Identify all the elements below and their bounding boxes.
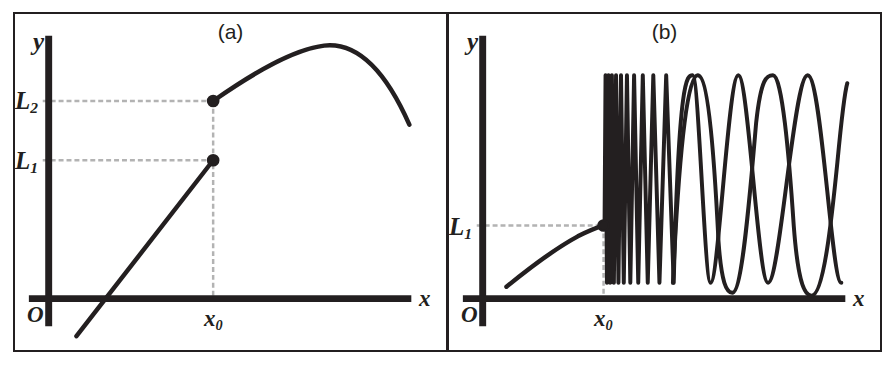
- y-tick-L1-subscript: 1: [30, 159, 38, 176]
- y-axis-label: y: [33, 28, 44, 56]
- x-tick-label-x0: x0: [594, 306, 613, 334]
- point-marker-L1: [208, 155, 219, 166]
- y-tick-label-L1: L1: [449, 213, 472, 243]
- y-tick-label-L1: L1: [15, 147, 38, 177]
- panel-b-plot: [449, 14, 880, 350]
- x-axis-label: x: [853, 286, 865, 312]
- curve-right-branch: [213, 45, 409, 124]
- figure-caption-partial: [0, 356, 895, 376]
- x-axis-label: x: [419, 286, 431, 312]
- curve-oscillation: [605, 75, 842, 283]
- y-axis-label: y: [467, 28, 478, 56]
- panel-a-plot: [15, 14, 446, 350]
- point-marker-L1: [598, 220, 609, 231]
- origin-label: O: [461, 302, 478, 328]
- y-tick-L2-subscript: 2: [30, 99, 38, 116]
- figure-root: (a) y x O L2 L1 x0: [0, 0, 895, 376]
- origin-label: O: [27, 302, 44, 328]
- y-tick-L2-base: L: [15, 87, 30, 114]
- panel-a: (a) y x O L2 L1 x0: [13, 12, 448, 352]
- x-tick-x0-subscript: 0: [606, 317, 613, 333]
- y-tick-L1-base: L: [449, 213, 464, 240]
- x-tick-x0-base: x: [594, 306, 606, 331]
- point-marker-L2: [208, 96, 219, 107]
- y-tick-label-L2: L2: [15, 87, 38, 117]
- x-tick-label-x0: x0: [204, 306, 223, 334]
- curve-left-branch: [506, 225, 603, 286]
- x-tick-x0-base: x: [204, 306, 216, 331]
- curve-left-branch: [76, 160, 213, 336]
- y-tick-L1-base: L: [15, 147, 30, 174]
- x-tick-x0-subscript: 0: [216, 317, 223, 333]
- y-tick-L1-subscript: 1: [464, 225, 472, 242]
- panel-b: (b) y x O L1 x0: [447, 12, 882, 352]
